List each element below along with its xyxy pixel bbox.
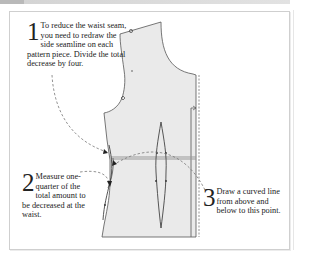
step-2-instruction: 2 Measure one-quarter of the total amoun… [22,172,86,220]
step-number: 2 [22,173,35,192]
step-number: 1 [27,22,40,41]
step-3-instruction: 3 Draw a curved line from above and belo… [203,187,283,216]
step-1-instruction: 1 To reduce the waist seam, you need to … [27,21,127,69]
step-number: 3 [203,188,216,207]
step1-arrow [52,75,107,152]
step-text: Draw a curved line from above and below … [217,187,281,215]
step-text: To reduce the waist seam, you need to re… [27,21,126,68]
